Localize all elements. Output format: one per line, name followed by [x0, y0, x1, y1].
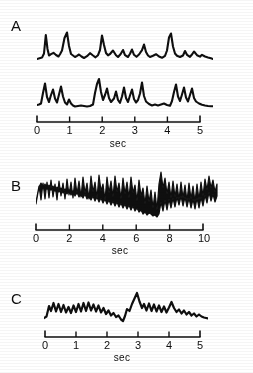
panel-letter-a: A [11, 17, 22, 34]
panel-letter-c: C [11, 290, 22, 307]
panel-b-tick-2: 4 [100, 232, 106, 244]
panel-a-tick-5: 5 [197, 124, 203, 136]
panel-b-tick-5: 10 [198, 232, 210, 244]
panel-a-tick-3: 3 [132, 124, 138, 136]
panel-c-unit-label: sec [114, 352, 130, 363]
figure-root: A 0 1 2 3 4 5 sec B [0, 0, 253, 373]
panel-a-axis [33, 113, 205, 125]
panel-a-trace-2 [37, 71, 213, 111]
panel-c-tick-3: 3 [135, 339, 141, 351]
panel-b-unit-label: sec [112, 245, 128, 256]
panel-a: A 0 1 2 3 4 5 sec [0, 0, 253, 152]
panel-c-tick-5: 5 [197, 339, 203, 351]
panel-a-tick-0: 0 [34, 124, 40, 136]
panel-a-tick-4: 4 [164, 124, 170, 136]
panel-a-tick-1: 1 [67, 124, 73, 136]
panel-c-axis [41, 328, 205, 340]
panel-a-tick-2: 2 [99, 124, 105, 136]
panel-c-tick-2: 2 [104, 339, 110, 351]
panel-a-unit-label: sec [110, 138, 126, 149]
panel-b: B 0 2 4 6 8 10 sec [0, 152, 253, 265]
panel-letter-b: B [11, 177, 22, 194]
panel-c-tick-1: 1 [73, 339, 79, 351]
panel-c-trace-1 [44, 289, 208, 323]
panel-b-tick-1: 2 [66, 232, 72, 244]
panel-b-tick-4: 8 [167, 232, 173, 244]
panel-c-tick-4: 4 [166, 339, 172, 351]
panel-c: C 0 1 2 3 4 5 sec [0, 265, 253, 373]
panel-b-tick-0: 0 [33, 232, 39, 244]
panel-b-trace-1 [36, 170, 218, 218]
panel-b-axis [32, 221, 208, 233]
panel-c-tick-0: 0 [42, 339, 48, 351]
panel-b-tick-3: 6 [133, 232, 139, 244]
panel-a-trace-1 [37, 24, 213, 64]
